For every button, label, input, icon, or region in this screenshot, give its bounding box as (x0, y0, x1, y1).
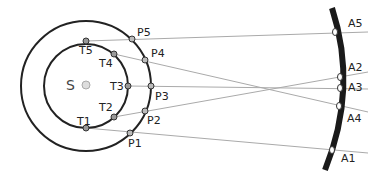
label-p4: P4 (151, 48, 165, 59)
label-a5: A5 (348, 18, 363, 29)
label-t3: T3 (110, 81, 124, 92)
point-t2 (111, 114, 117, 120)
point-p1 (127, 130, 133, 136)
sight-line-2 (114, 72, 368, 117)
sun-icon (82, 81, 90, 89)
label-p3: P3 (155, 91, 169, 102)
label-a3: A3 (348, 82, 363, 93)
label-t2: T2 (99, 102, 113, 113)
point-a3 (338, 85, 343, 92)
point-a1 (330, 147, 335, 154)
point-a2 (338, 74, 343, 81)
point-p3 (148, 83, 154, 89)
label-p5: P5 (137, 27, 151, 38)
label-p1: P1 (128, 138, 142, 149)
label-a1: A1 (341, 153, 356, 164)
label-a2: A2 (348, 62, 363, 73)
label-a4: A4 (347, 113, 362, 124)
point-p4 (142, 57, 148, 63)
point-t3 (125, 83, 131, 89)
point-p5 (129, 36, 135, 42)
label-t5: T5 (79, 45, 93, 56)
point-a4 (337, 103, 342, 110)
label-sun: S (66, 78, 75, 92)
label-p2: P2 (147, 115, 161, 126)
sight-line-3 (128, 86, 368, 89)
orbit-diagram (0, 0, 386, 177)
label-t4: T4 (99, 58, 113, 69)
point-a5 (333, 29, 338, 36)
label-t1: T1 (77, 116, 91, 127)
